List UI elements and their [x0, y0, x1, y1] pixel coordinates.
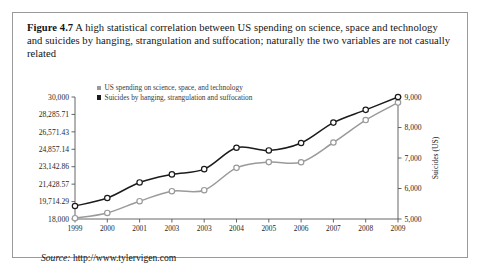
legend-item-spending: US spending on science, space, and techn… — [97, 83, 252, 93]
legend-swatch-icon-spending — [97, 86, 101, 90]
figure-caption: Figure 4.7 A high statistical correlatio… — [27, 21, 451, 61]
source-label: Source: — [41, 252, 70, 263]
source-url: http://www.tylervigen.com — [73, 252, 176, 263]
legend-swatch-icon-suicides — [97, 95, 101, 99]
chart-legend: US spending on science, space, and techn… — [97, 83, 252, 102]
legend-item-suicides: Suicides by hanging, strangulation and s… — [97, 93, 252, 103]
figure-number: Figure 4.7 — [27, 22, 73, 33]
figure-caption-text: A high statistical correlation between U… — [27, 22, 450, 59]
source-line: Source: http://www.tylervigen.com — [41, 252, 176, 263]
figure-frame: Figure 4.7 A high statistical correlatio… — [12, 12, 468, 258]
legend-label-spending: US spending on science, space, and techn… — [105, 83, 243, 93]
legend-label-suicides: Suicides by hanging, strangulation and s… — [105, 93, 253, 103]
